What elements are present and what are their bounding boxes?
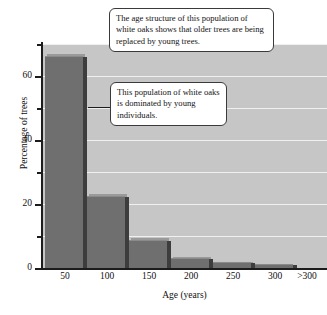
plot-area	[42, 44, 327, 268]
figure-container: 60 40 20 0 Percentage of trees 50 100 15…	[0, 0, 327, 315]
x-tick-label-150: 150	[129, 272, 169, 282]
y-tick-label-0: 0	[8, 263, 32, 273]
annotation-young-dominated: This population of white oaks is dominat…	[110, 82, 227, 126]
x-axis-title: Age (years)	[42, 290, 327, 300]
y-axis-title: Percentage of trees	[19, 73, 29, 193]
y-tick-label-20: 20	[8, 199, 32, 209]
bar-front-face-100	[87, 196, 125, 268]
bar-100	[87, 194, 125, 268]
bar-front-face-200	[171, 258, 209, 268]
x-tick-label-250: 250	[213, 272, 253, 282]
y-tick-major-20	[35, 204, 42, 206]
y-tick-major-40	[35, 140, 42, 142]
bar-150	[129, 238, 167, 268]
y-tick-minor-70	[37, 44, 42, 46]
bar-front-face-50	[45, 56, 83, 268]
y-tick-minor-30	[37, 172, 42, 174]
annotation-age-structure: The age structure of this population of …	[109, 8, 274, 52]
x-axis-line	[41, 268, 327, 270]
x-tick-label-over-300: >300	[287, 272, 327, 282]
bar-50	[45, 54, 83, 268]
bar-200	[171, 257, 209, 268]
bar-front-face-150	[129, 240, 167, 268]
y-tick-minor-50	[37, 108, 42, 110]
x-tick-label-50: 50	[45, 272, 85, 282]
y-tick-major-60	[35, 76, 42, 78]
y-tick-major-0	[35, 268, 42, 270]
x-tick-label-200: 200	[171, 272, 211, 282]
x-tick-label-100: 100	[87, 272, 127, 282]
y-tick-minor-10	[37, 236, 42, 238]
annotation-leader-line	[88, 107, 111, 108]
